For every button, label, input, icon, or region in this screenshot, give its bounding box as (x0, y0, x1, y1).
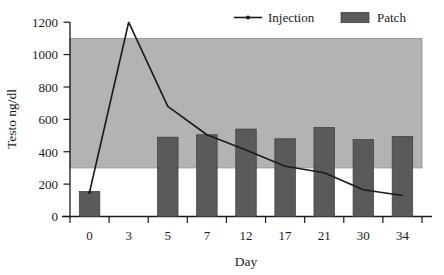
legend-injection-dot-icon (246, 15, 250, 19)
y-tick-label-1200: 1200 (32, 15, 58, 30)
x-axis-ticks (70, 217, 422, 224)
legend-label-injection: Injection (268, 10, 315, 25)
legend-patch-swatch-icon (341, 12, 369, 22)
x-tick-label-0: 0 (86, 228, 93, 243)
chart-figure: 1200 1000 800 600 400 200 0 (0, 0, 444, 275)
bar-day-30 (353, 140, 374, 217)
bar-day-34 (392, 136, 413, 216)
y-tick-label-200: 200 (39, 177, 59, 192)
x-tick-label-7: 7 (204, 228, 211, 243)
x-tick-label-5: 5 (165, 228, 172, 243)
y-axis-ticks (64, 22, 71, 216)
y-tick-label-0: 0 (52, 209, 59, 224)
bar-day-5 (158, 137, 179, 216)
y-axis-title: Testo ng/dl (4, 89, 19, 149)
x-tick-label-34: 34 (396, 228, 410, 243)
line-marker-day-0 (88, 191, 91, 194)
legend-label-patch: Patch (377, 10, 406, 25)
bar-day-7 (197, 135, 218, 217)
bar-day-17 (275, 139, 296, 217)
x-tick-label-30: 30 (357, 228, 370, 243)
y-tick-label-800: 800 (39, 80, 59, 95)
x-tick-label-12: 12 (240, 228, 253, 243)
x-tick-label-3: 3 (125, 228, 132, 243)
y-tick-label-600: 600 (39, 112, 59, 127)
x-tick-label-21: 21 (318, 228, 331, 243)
bar-day-0 (79, 191, 100, 216)
y-tick-label-1000: 1000 (32, 47, 58, 62)
y-tick-label-400: 400 (39, 145, 59, 160)
testosterone-chart: 1200 1000 800 600 400 200 0 (0, 0, 444, 275)
bar-day-12 (236, 129, 257, 216)
x-tick-label-17: 17 (279, 228, 293, 243)
x-axis-title: Day (235, 254, 258, 269)
